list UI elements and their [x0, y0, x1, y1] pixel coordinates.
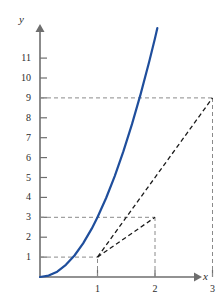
- x-tick-label: 2: [148, 284, 162, 294]
- y-tick-marks: [40, 58, 47, 257]
- y-tick-label: 8: [15, 113, 31, 123]
- x-axis-arrow-icon: [194, 273, 202, 282]
- y-tick-label: 10: [15, 73, 31, 83]
- y-tick-label: 2: [15, 232, 31, 242]
- y-tick-label: 5: [15, 173, 31, 183]
- y-axis-label: y: [19, 14, 24, 25]
- secant-1-to-2: [98, 217, 156, 257]
- y-tick-label: 9: [15, 93, 31, 103]
- y-tick-label: 3: [15, 212, 31, 222]
- y-tick-label: 11: [15, 53, 31, 63]
- y-axis-arrow-icon: [36, 24, 45, 32]
- graph-figure: y x 1234567891011 123: [0, 0, 220, 301]
- x-tick-label: 1: [91, 284, 105, 294]
- x-axis-label: x: [203, 271, 208, 282]
- y-tick-label: 7: [15, 133, 31, 143]
- y-tick-label: 6: [15, 153, 31, 163]
- x-tick-label: 3: [206, 284, 220, 294]
- y-tick-label: 4: [15, 192, 31, 202]
- plot-canvas: [0, 0, 220, 301]
- function-curve: [40, 28, 157, 277]
- guide-lines-group: [40, 98, 213, 277]
- y-tick-label: 1: [15, 252, 31, 262]
